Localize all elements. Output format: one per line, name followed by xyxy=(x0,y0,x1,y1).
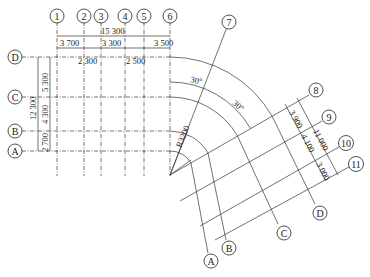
rotated-bubble-B: B xyxy=(222,241,236,255)
svg-text:6: 6 xyxy=(168,11,173,22)
axis-bubble-9: 9 xyxy=(322,110,336,124)
axis-bubble-3: 3 xyxy=(94,9,108,23)
svg-text:B: B xyxy=(12,126,19,137)
dim-seg-3: 3 500 xyxy=(154,38,173,48)
svg-text:4: 4 xyxy=(123,11,128,22)
svg-text:8: 8 xyxy=(314,85,319,96)
svg-text:A: A xyxy=(11,146,19,157)
dim-seg-2: 3 300 xyxy=(102,38,121,48)
curved-axis-arcs xyxy=(170,57,272,163)
svg-text:D: D xyxy=(316,208,323,219)
svg-text:10: 10 xyxy=(341,138,351,149)
svg-text:2: 2 xyxy=(82,11,87,22)
dim-vseg-3: 2 700 xyxy=(40,133,50,152)
axis-bubble-7: 7 xyxy=(222,15,236,29)
axis-bubble-B: B xyxy=(8,124,22,138)
svg-text:C: C xyxy=(281,228,288,239)
svg-text:9: 9 xyxy=(327,112,332,123)
dim-total-horizontal: 15 300 xyxy=(101,26,124,36)
svg-text:3: 3 xyxy=(99,11,104,22)
grid-axis-drawing: R3200 30° 30° 15 300 3 700 3 300 3 500 2… xyxy=(0,0,370,277)
dim-vseg-2: 4 300 xyxy=(40,105,50,124)
axis-bubble-10: 10 xyxy=(339,136,354,151)
axis-bubble-A: A xyxy=(8,144,22,158)
dim-total-vertical: 12 300 xyxy=(28,97,38,120)
axis-bubble-1: 1 xyxy=(50,9,64,23)
dim-rot-seg-3: 3 000 xyxy=(314,160,332,182)
rotated-bubble-A: A xyxy=(204,254,218,268)
angle-label-2: 30° xyxy=(231,98,247,113)
dim-vseg-1: 5 300 xyxy=(40,73,50,92)
svg-text:B: B xyxy=(226,243,233,254)
svg-text:5: 5 xyxy=(142,11,147,22)
axis-bubble-11: 11 xyxy=(349,157,364,172)
svg-text:7: 7 xyxy=(227,17,232,28)
rotated-bubble-D: D xyxy=(313,206,327,220)
axis-bubble-4: 4 xyxy=(118,9,132,23)
dim-inner-2: 2 500 xyxy=(126,56,145,66)
dim-inner-1: 2 300 xyxy=(78,56,97,66)
svg-text:A: A xyxy=(207,256,215,267)
svg-text:11: 11 xyxy=(351,159,361,170)
axis-bubble-C: C xyxy=(8,90,22,104)
svg-text:C: C xyxy=(12,92,19,103)
svg-text:1: 1 xyxy=(55,11,60,22)
radius-leader: R3200 xyxy=(170,124,191,175)
axis-bubble-D: D xyxy=(8,50,22,64)
svg-text:D: D xyxy=(11,52,18,63)
axis-bubble-5: 5 xyxy=(137,9,151,23)
radius-label: R3200 xyxy=(174,124,192,149)
dim-rot-seg-1: 3 900 xyxy=(287,108,305,130)
axis-bubble-2: 2 xyxy=(77,9,91,23)
rotated-bubble-C: C xyxy=(277,226,291,240)
axis-bubble-6: 6 xyxy=(163,9,177,23)
dim-seg-1: 3 700 xyxy=(60,38,79,48)
axis-bubble-8: 8 xyxy=(309,83,323,97)
